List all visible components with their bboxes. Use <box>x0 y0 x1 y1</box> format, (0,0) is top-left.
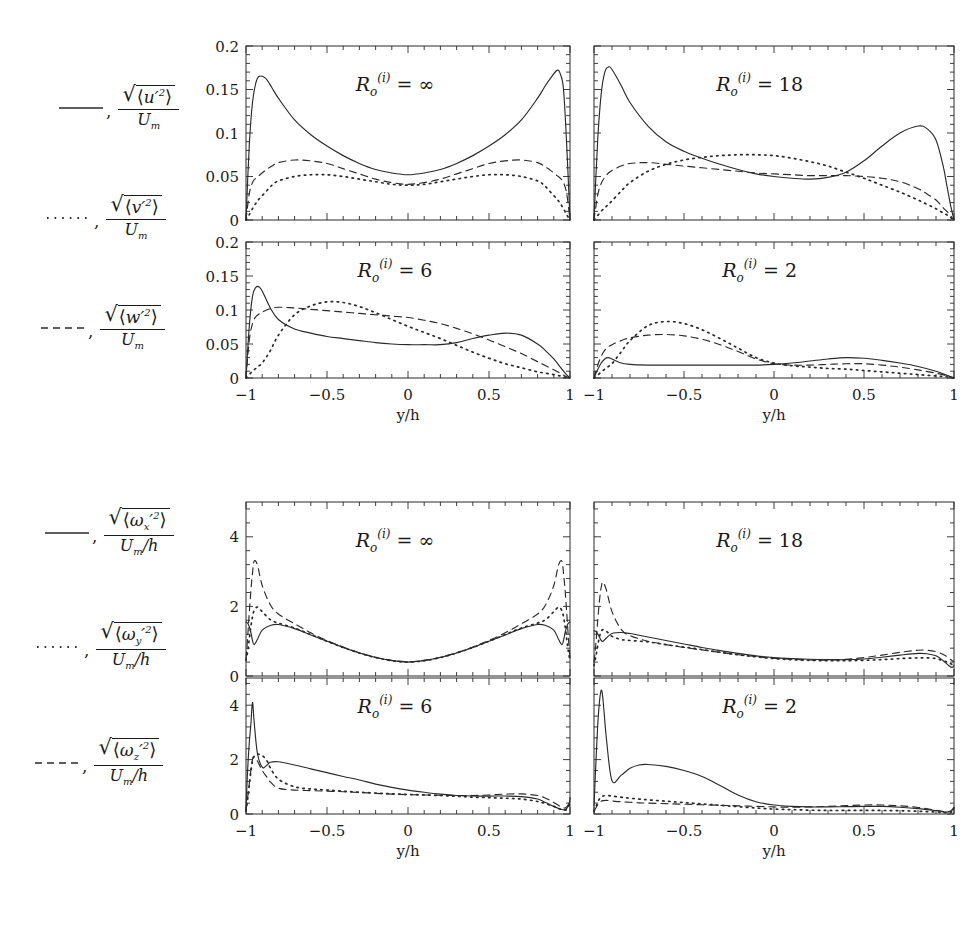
sqrt-icon: √⟨ωy′2⟩ <box>100 622 161 648</box>
legend-comma: , <box>82 756 87 776</box>
y-tick-label: 0.2 <box>215 234 239 252</box>
legend-formula-wz-rms: √⟨ωz′2⟩ Um/h <box>94 738 163 788</box>
chart-svg: −1−0.500.51y/hRo(i) = 2 <box>586 672 958 858</box>
x-tick-label: −1 <box>583 822 605 840</box>
legend-item-wz-rms: , √⟨ωz′2⟩ Um/h <box>34 738 163 788</box>
y-tick-label: 4 <box>229 528 239 546</box>
legend-comma: , <box>106 101 111 121</box>
x-tick-label: 0 <box>769 822 779 840</box>
legend-formula-u-rms: √⟨u′2⟩ Um <box>118 85 179 132</box>
ro-annotation: Ro(i) = ∞ <box>355 71 435 99</box>
figure-root: , √⟨u′2⟩ Um , √⟨v′2⟩ <box>0 0 971 932</box>
sqrt-icon: √⟨u′2⟩ <box>122 85 175 108</box>
ro-annotation: Ro(i) = 2 <box>721 257 797 285</box>
panel-velocity-ro-6: 00.050.10.150.2−1−0.500.51y/hRo(i) = 6 <box>202 236 574 422</box>
plot-frame <box>246 46 570 220</box>
series-line-v_rms <box>246 302 570 378</box>
y-tick-label: 0.15 <box>206 268 239 286</box>
x-tick-label: 0.5 <box>852 386 876 404</box>
series-line-wy_rms <box>594 630 954 666</box>
legend-item-wx-rms: , √⟨ωx′2⟩ Um/h <box>44 508 174 558</box>
series-line-w_rms <box>246 307 570 378</box>
x-tick-label: −0.5 <box>666 386 702 404</box>
legend-formula-wy-rms: √⟨ωy′2⟩ Um/h <box>96 622 165 672</box>
y-tick-label: 0 <box>229 370 239 388</box>
series-line-u_rms <box>246 286 570 378</box>
x-axis-label: y/h <box>761 406 786 424</box>
series-line-wx_rms <box>594 631 954 668</box>
x-tick-label: 1 <box>565 386 575 404</box>
sqrt-icon: √⟨ωx′2⟩ <box>108 508 169 534</box>
ro-annotation: Ro(i) = 18 <box>715 527 803 555</box>
x-tick-label: 0 <box>769 386 779 404</box>
plot-frame <box>246 502 570 676</box>
series-line-wz_rms <box>594 582 954 662</box>
legend-item-u-rms: , √⟨u′2⟩ Um <box>58 85 179 132</box>
y-tick-label: 0.05 <box>206 168 239 186</box>
x-tick-label: 0.5 <box>477 822 501 840</box>
panel-velocity-ro-inf: 00.050.10.150.2Ro(i) = ∞ <box>202 40 574 226</box>
plot-frame <box>594 502 954 676</box>
x-axis-label: y/h <box>395 842 420 860</box>
panel-velocity-ro-18: Ro(i) = 18 <box>586 40 958 226</box>
y-tick-label: 2 <box>229 598 239 616</box>
series-line-wy_rms <box>246 607 570 662</box>
x-axis-ticks <box>594 502 954 676</box>
solid-line-sample <box>44 526 90 540</box>
y-tick-label: 0.15 <box>206 81 239 99</box>
x-tick-label: −1 <box>235 386 257 404</box>
ro-annotation: Ro(i) = ∞ <box>355 527 435 555</box>
x-tick-label: 0 <box>403 822 413 840</box>
chart-svg: 00.050.10.150.2Ro(i) = ∞ <box>202 40 574 226</box>
x-tick-label: −1 <box>235 822 257 840</box>
chart-svg: 00.050.10.150.2−1−0.500.51y/hRo(i) = 6 <box>202 236 574 422</box>
dotted-line-sample <box>46 211 92 225</box>
panel-vorticity-ro-18: Ro(i) = 18 <box>586 496 958 682</box>
legend-formula-v-rms: √⟨v′2⟩ Um <box>106 195 165 242</box>
panel-vorticity-ro-inf: 024Ro(i) = ∞ <box>202 496 574 682</box>
chart-svg: 024−1−0.500.51y/hRo(i) = 6 <box>202 672 574 858</box>
y-axis-ticks <box>246 46 570 220</box>
legend-item-wy-rms: , √⟨ωy′2⟩ Um/h <box>36 622 166 672</box>
x-tick-label: 0 <box>403 386 413 404</box>
series-line-w_rms <box>246 160 570 220</box>
chart-svg: 024Ro(i) = ∞ <box>202 496 574 682</box>
series-line-v_rms <box>594 321 954 378</box>
ro-annotation: Ro(i) = 2 <box>721 693 797 721</box>
y-tick-label: 0.2 <box>215 38 239 56</box>
x-tick-label: 1 <box>949 386 959 404</box>
sqrt-icon: √⟨v′2⟩ <box>110 195 161 218</box>
sqrt-icon: √⟨ωz′2⟩ <box>98 738 159 764</box>
legend-comma: , <box>94 211 99 231</box>
chart-svg: −1−0.500.51y/hRo(i) = 2 <box>586 236 958 422</box>
x-axis-label: y/h <box>395 406 420 424</box>
y-tick-label: 0.05 <box>206 336 239 354</box>
panel-vorticity-ro-6: 024−1−0.500.51y/hRo(i) = 6 <box>202 672 574 858</box>
ro-annotation: Ro(i) = 6 <box>357 257 433 285</box>
chart-svg: Ro(i) = 18 <box>586 496 958 682</box>
legend-vorticity: , √⟨ωx′2⟩ Um/h , √⟨ωy′2⟩ <box>30 490 230 820</box>
chart-svg: Ro(i) = 18 <box>586 40 958 226</box>
x-tick-label: 1 <box>565 822 575 840</box>
legend-item-w-rms: , √⟨w′2⟩ Um <box>40 305 165 352</box>
x-tick-label: 0.5 <box>477 386 501 404</box>
y-tick-label: 4 <box>229 697 239 715</box>
y-tick-label: 0.1 <box>215 125 239 143</box>
legend-comma: , <box>84 640 89 660</box>
legend-velocity: , √⟨u′2⟩ Um , √⟨v′2⟩ <box>30 55 230 375</box>
x-axis-ticks <box>246 502 570 676</box>
x-axis-label: y/h <box>761 842 786 860</box>
x-tick-label: −0.5 <box>666 822 702 840</box>
ro-annotation: Ro(i) = 6 <box>357 693 433 721</box>
legend-comma: , <box>92 526 97 546</box>
y-tick-label: 0 <box>229 212 239 230</box>
ro-annotation: Ro(i) = 18 <box>715 71 803 99</box>
dashed-line-sample <box>40 321 86 335</box>
sqrt-icon: √⟨w′2⟩ <box>104 305 160 328</box>
series-line-wy_rms <box>246 754 570 811</box>
x-tick-label: −0.5 <box>309 822 345 840</box>
panel-velocity-ro-2: −1−0.500.51y/hRo(i) = 2 <box>586 236 958 422</box>
y-tick-label: 0 <box>229 806 239 824</box>
legend-formula-wx-rms: √⟨ωx′2⟩ Um/h <box>104 508 173 558</box>
series-line-v_rms <box>594 155 954 220</box>
